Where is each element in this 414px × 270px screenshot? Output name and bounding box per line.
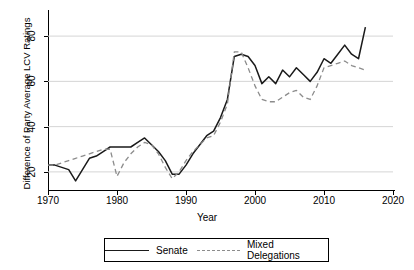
y-tick-mark: [44, 127, 48, 128]
x-tick-label: 1980: [106, 195, 128, 206]
x-tick-label: 2010: [313, 195, 335, 206]
x-tick-label: 2020: [382, 195, 404, 206]
legend-item-mixed-delegations: Mixed Delegations: [197, 239, 328, 261]
y-tick-label: 20: [26, 163, 37, 181]
x-tick-label: 1990: [175, 195, 197, 206]
x-axis-line: [48, 190, 395, 191]
legend-label-mixed-delegations: Mixed Delegations: [247, 239, 328, 261]
chart-legend: Senate Mixed Delegations: [104, 238, 329, 262]
series-line-senate: [48, 27, 365, 181]
y-tick-mark: [44, 81, 48, 82]
y-tick-label: 40: [26, 118, 37, 136]
x-tick-label: 2000: [244, 195, 266, 206]
legend-item-senate: Senate: [105, 245, 188, 256]
chart-container: Difference of Party Average LCV Ratings …: [0, 0, 414, 270]
gridlines: [48, 36, 393, 172]
x-tick-label: 1970: [37, 195, 59, 206]
y-tick-mark: [44, 36, 48, 37]
y-tick-label: 60: [26, 72, 37, 90]
legend-swatch-dashed-icon: [197, 250, 240, 251]
plot-area: [48, 18, 393, 190]
x-axis-title: Year: [0, 212, 414, 223]
y-tick-label: 80: [26, 27, 37, 45]
y-tick-mark: [44, 172, 48, 173]
legend-swatch-solid-icon: [105, 250, 149, 251]
data-series-group: [48, 27, 365, 181]
legend-label-senate: Senate: [156, 245, 188, 256]
chart-lines: [48, 18, 393, 190]
